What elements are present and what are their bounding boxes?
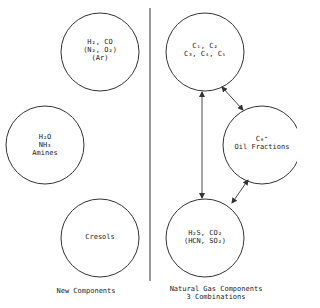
caption-natural-gas-line2: 3 Combinations — [170, 293, 263, 301]
caption-natural-gas-line1: Natural Gas Components — [170, 285, 263, 293]
label-polar: H₂O NH₃ Amines — [32, 133, 57, 157]
label-syngas-line3: (Ar) — [83, 54, 117, 62]
label-acid-gases: H₂S, CO₂ (HCN, SO₂) — [184, 229, 226, 245]
arrow-oil-to-acid — [232, 180, 248, 203]
label-acid-line1: H₂S, CO₂ — [184, 229, 226, 237]
label-polar-line3: Amines — [32, 149, 57, 157]
label-oil-fractions: C₆⁺ Oil Fractions — [235, 135, 290, 151]
label-light-line1: C₁, C₂ — [184, 42, 226, 50]
label-oil-line1: C₆⁺ — [235, 135, 290, 143]
label-cresols-line1: Cresols — [85, 233, 115, 241]
label-cresols: Cresols — [85, 233, 115, 241]
label-light-line2: C₃, C₄, C₅ — [184, 50, 226, 58]
label-polar-line2: NH₃ — [32, 141, 57, 149]
caption-new-components: New Components — [56, 287, 115, 295]
label-syngas-line1: H₂, CO — [83, 38, 117, 46]
label-polar-line1: H₂O — [32, 133, 57, 141]
caption-natural-gas: Natural Gas Components 3 Combinations — [170, 285, 263, 301]
label-syngas-line2: (N₂, O₂) — [83, 46, 117, 54]
label-oil-line2: Oil Fractions — [235, 143, 290, 151]
label-acid-line2: (HCN, SO₂) — [184, 237, 226, 245]
arrow-light-to-oil — [222, 87, 243, 110]
label-syngas: H₂, CO (N₂, O₂) (Ar) — [83, 38, 117, 62]
label-light-hydrocarbons: C₁, C₂ C₃, C₄, C₅ — [184, 42, 226, 58]
